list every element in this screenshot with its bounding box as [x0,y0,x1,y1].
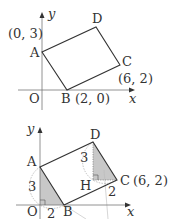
length-ob: 2 [47,206,55,219]
y-axis-label: y [47,6,56,21]
vertex-b-label: B [63,204,73,219]
vertex-b-coord: (2, 0) [75,91,110,106]
length-dh: 3 [80,150,88,165]
vertex-c-coord: (6, 2) [133,173,168,188]
vertex-h-label: H [80,178,91,193]
square-abcd [42,27,120,90]
top-diagram: y D (0, 3) A C (6, 2) O B (2, 0) x [8,6,153,110]
y-axis-label: y [26,121,35,136]
vertex-c-coord: (6, 2) [118,71,153,86]
vertex-c-label: C [122,54,132,69]
vertex-d-label: D [90,127,100,142]
length-hc: 2 [108,184,116,199]
vertex-d-label: D [92,11,102,26]
vertex-a-label: A [26,154,37,169]
vertex-a-coord: (0, 3) [8,26,43,41]
x-axis-label: x [129,91,137,106]
origin-label: O [29,91,40,106]
vertex-a-label: A [29,45,40,60]
vertex-c-label: C [120,173,130,188]
length-oa: 3 [28,179,36,194]
origin-label: O [27,204,38,219]
y-axis-arrow-icon [40,12,45,18]
figure: y D (0, 3) A C (6, 2) O B (2, 0) x [0,0,172,219]
vertex-b-label: B [61,91,71,106]
bottom-diagram: y D A 3 3 H C (6, 2) 2 O 2 B x [16,121,168,219]
x-axis-label: x [127,204,135,219]
y-axis-arrow-icon [38,127,43,133]
